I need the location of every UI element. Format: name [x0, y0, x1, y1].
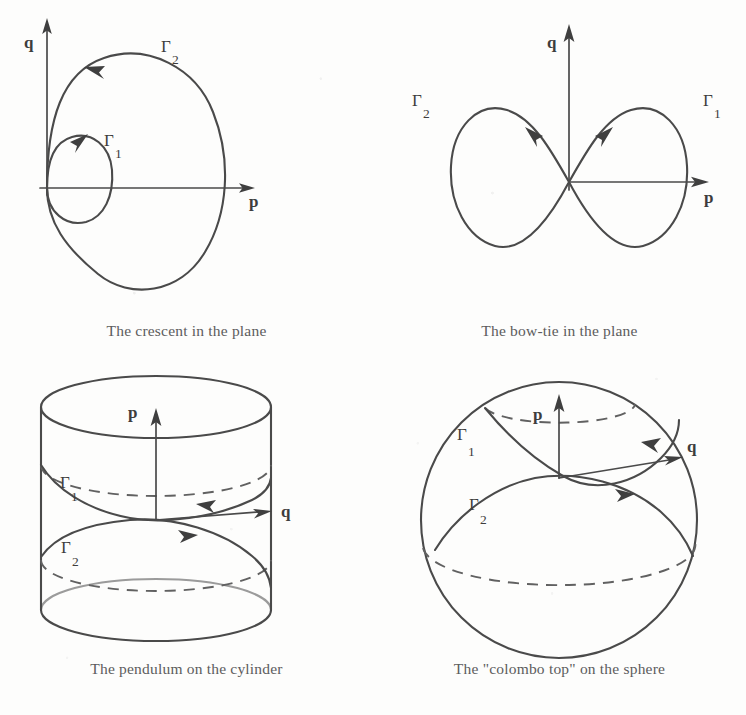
orbit-gamma1-curve [569, 108, 687, 247]
orbit-gamma2-curve [435, 476, 693, 556]
gamma1-letter: Γ [703, 91, 713, 110]
panel-cylinder: p q Γ 1 Γ 2 The pendulum on the cylinder [0, 360, 373, 715]
gamma2-subscript: 2 [172, 52, 179, 67]
orbit-gamma2-arrowhead [178, 530, 198, 543]
gamma1-letter: Γ [457, 425, 467, 444]
orbit-gamma1-arrowhead [196, 500, 216, 513]
gamma2-letter: Γ [469, 495, 479, 514]
p-axis [40, 183, 255, 193]
orbit-gamma1-label: Γ 1 [457, 425, 475, 459]
p-axis-label: p [533, 405, 542, 424]
p-axis [151, 408, 162, 520]
figure-plate: q p Γ 2 Γ 1 The crescent in the plane [0, 0, 746, 715]
gamma2-letter: Γ [61, 538, 71, 557]
orbit-gamma1-label: Γ 1 [104, 131, 122, 161]
cylinder-diagram: p q Γ 1 Γ 2 [0, 360, 373, 670]
gamma1-subscript: 1 [71, 489, 78, 504]
panel-crescent: q p Γ 2 Γ 1 The crescent in the plane [0, 0, 373, 360]
orbit-gamma2-label: Γ 2 [61, 538, 79, 569]
orbit-gamma1-label: Γ 1 [60, 473, 78, 504]
q-axis-label: q [281, 502, 291, 521]
q-axis [564, 24, 575, 190]
panel-bowtie-caption: The bow-tie in the plane [373, 322, 746, 340]
panel-crescent-caption: The crescent in the plane [0, 322, 373, 340]
orbit-gamma1-arrowhead [641, 438, 661, 453]
sphere-hidden-equator-arc [423, 542, 695, 585]
orbit-gamma2-arrowhead [84, 66, 105, 79]
orbit-gamma2-curve [47, 54, 225, 290]
gamma2-subscript: 2 [480, 512, 487, 527]
orbit-gamma1-label: Γ 1 [703, 91, 721, 121]
crescent-diagram: q p Γ 2 Γ 1 [0, 0, 373, 320]
gamma1-letter: Γ [104, 131, 114, 150]
orbit-gamma1-curve [47, 136, 112, 223]
p-axis-label: p [704, 188, 713, 207]
orbit-gamma2-label: Γ 2 [412, 91, 430, 121]
gamma2-subscript: 2 [423, 106, 430, 121]
p-axis [554, 394, 565, 478]
orbit-gamma2-arrowhead [615, 489, 635, 502]
p-axis-label: p [249, 192, 258, 211]
q-axis-label: q [547, 33, 557, 52]
gamma1-letter: Γ [60, 473, 70, 492]
panel-bowtie: q p Γ 2 Γ 1 The bow-tie in the plane [373, 0, 746, 360]
gamma2-letter: Γ [161, 37, 171, 56]
bowtie-diagram: q p Γ 2 Γ 1 [373, 0, 746, 320]
p-axis-label: p [128, 403, 137, 422]
gamma1-subscript: 1 [714, 106, 721, 121]
orbit-gamma2-curve [451, 108, 569, 247]
q-axis-label: q [687, 437, 697, 456]
q-axis [559, 456, 683, 478]
gamma2-subscript: 2 [72, 554, 79, 569]
q-axis [156, 509, 272, 520]
gamma1-subscript: 1 [115, 146, 122, 161]
panel-sphere-caption: The "colombo top" on the sphere [373, 660, 746, 678]
panel-sphere: p q Γ 1 Γ 2 The "colombo top" on the sph… [373, 360, 746, 715]
panel-cylinder-caption: The pendulum on the cylinder [0, 660, 373, 678]
gamma1-subscript: 1 [468, 444, 475, 459]
gamma2-letter: Γ [412, 91, 422, 110]
q-axis-label: q [24, 33, 34, 52]
sphere-diagram: p q Γ 1 Γ 2 [373, 360, 746, 670]
